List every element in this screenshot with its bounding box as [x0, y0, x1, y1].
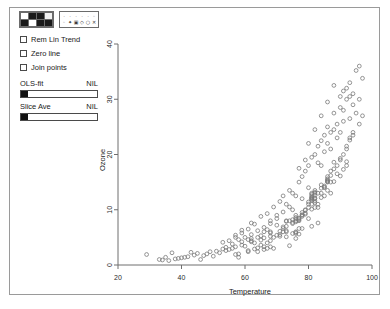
data-point	[319, 191, 323, 195]
color-palette[interactable]	[19, 11, 54, 28]
data-point	[288, 244, 292, 248]
x-tick-label: 20	[114, 274, 122, 281]
data-point	[319, 183, 323, 187]
data-point	[316, 206, 320, 210]
data-point	[262, 226, 266, 230]
data-point	[284, 229, 288, 233]
data-point	[316, 202, 320, 206]
data-point	[180, 256, 184, 260]
data-point	[294, 216, 298, 220]
data-point	[199, 258, 203, 262]
x-tick-label: 60	[241, 274, 249, 281]
data-point	[249, 233, 253, 237]
data-point	[275, 213, 279, 217]
data-point	[294, 194, 298, 198]
data-point	[284, 235, 288, 239]
data-point	[313, 189, 317, 193]
data-point	[186, 255, 190, 259]
data-point	[354, 69, 358, 73]
symbol-cross-icon[interactable]: ✕	[91, 19, 97, 25]
data-point	[313, 196, 317, 200]
data-point	[300, 211, 304, 215]
data-point	[294, 220, 298, 224]
data-point	[145, 253, 149, 257]
data-point	[313, 201, 317, 205]
checkbox-label: Rem Lin Trend	[31, 35, 80, 44]
data-point	[218, 251, 222, 255]
color-swatch[interactable]	[37, 20, 44, 26]
data-point	[310, 197, 314, 201]
data-point	[351, 103, 355, 107]
data-point	[335, 164, 339, 168]
color-swatch[interactable]	[45, 20, 52, 26]
checkbox-box[interactable]	[20, 64, 27, 71]
slider-slice-ave[interactable]	[20, 113, 98, 121]
slider-group-slice-ave: Slice Ave NIL	[20, 102, 98, 121]
checkbox-box[interactable]	[20, 50, 27, 57]
data-point	[326, 125, 330, 129]
data-point	[348, 95, 352, 99]
data-point	[243, 244, 247, 248]
data-point	[319, 139, 323, 143]
data-point	[183, 255, 187, 259]
data-point	[272, 236, 276, 240]
data-point	[281, 230, 285, 234]
data-point	[338, 95, 342, 99]
data-point	[294, 237, 298, 241]
data-point	[357, 64, 361, 68]
data-point	[262, 230, 266, 234]
data-point	[338, 174, 342, 178]
slider-value: NIL	[86, 102, 98, 111]
data-point	[323, 194, 327, 198]
data-point	[307, 186, 311, 190]
data-point	[323, 186, 327, 190]
data-point	[221, 240, 225, 244]
data-point	[297, 232, 301, 236]
data-point	[278, 229, 282, 233]
data-point	[313, 191, 317, 195]
checkbox-join-points[interactable]: Join points	[20, 63, 67, 72]
data-point	[326, 175, 330, 179]
checkbox-rem-lin-trend[interactable]: Rem Lin Trend	[20, 35, 80, 44]
color-swatch[interactable]	[45, 13, 52, 19]
data-point	[205, 252, 209, 256]
data-point	[329, 169, 333, 173]
data-point	[300, 213, 304, 217]
data-point	[342, 168, 346, 172]
data-point	[323, 150, 327, 154]
color-swatch[interactable]	[21, 20, 28, 26]
slider-label: OLS-fit	[20, 79, 43, 88]
data-point	[265, 247, 269, 251]
data-point	[332, 180, 336, 184]
data-point	[300, 227, 304, 231]
data-point	[310, 191, 314, 195]
data-point	[313, 190, 317, 194]
data-point	[237, 238, 241, 242]
data-point	[284, 219, 288, 223]
data-point	[256, 246, 260, 250]
checkbox-label: Zero line	[31, 49, 60, 58]
data-point	[167, 259, 171, 263]
data-point	[249, 237, 253, 241]
slider-ols-fit[interactable]	[20, 90, 98, 98]
slider-thumb[interactable]	[21, 114, 28, 120]
data-point	[284, 230, 288, 234]
data-point	[316, 221, 320, 225]
data-point	[281, 227, 285, 231]
data-point	[329, 180, 333, 184]
color-swatch[interactable]	[29, 20, 36, 26]
data-point	[310, 155, 314, 159]
slider-thumb[interactable]	[21, 91, 28, 97]
data-point	[281, 194, 285, 198]
color-swatch[interactable]	[37, 13, 44, 19]
data-point	[211, 254, 215, 258]
symbol-palette[interactable]: · · · · · ◦ ◦ ✦ ▣ ◇ ○ ✕	[59, 11, 99, 28]
checkbox-box[interactable]	[20, 36, 27, 43]
data-point	[319, 196, 323, 200]
color-swatch[interactable]	[29, 13, 36, 19]
y-tick-label: 20	[106, 151, 113, 159]
color-swatch[interactable]	[21, 13, 28, 19]
checkbox-zero-line[interactable]: Zero line	[20, 49, 60, 58]
data-point	[164, 255, 168, 259]
data-point	[294, 230, 298, 234]
